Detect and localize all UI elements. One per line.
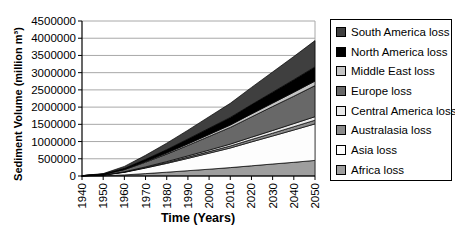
legend-label: Europe loss	[351, 85, 412, 97]
legend-label: Central America loss	[351, 105, 455, 117]
legend-swatch	[336, 47, 346, 57]
y-tick-label: 1000000	[31, 136, 76, 148]
legend-swatch	[336, 145, 346, 155]
x-tick-label: 2040	[288, 183, 300, 209]
x-tick-label: 2020	[245, 183, 257, 209]
y-tick-label: 500000	[38, 153, 76, 165]
legend-label: North America loss	[351, 46, 448, 58]
x-tick-label: 1960	[118, 183, 130, 209]
x-tick-label: 1950	[97, 183, 109, 209]
y-tick-label: 0	[70, 170, 76, 182]
x-tick-label: 1970	[140, 183, 152, 209]
legend-swatch	[336, 66, 346, 76]
legend-label: South America loss	[351, 26, 449, 38]
y-tick-label: 1500000	[31, 118, 76, 130]
legend-item-asia-loss: Asia loss	[331, 140, 451, 160]
legend-item-australasia-loss: Australasia loss	[331, 120, 451, 140]
y-tick-label: 4500000	[31, 15, 76, 27]
x-tick-label: 2000	[203, 183, 215, 209]
y-tick-label: 3500000	[31, 49, 76, 61]
legend-swatch	[336, 165, 346, 175]
legend-label: Australasia loss	[351, 124, 432, 136]
x-tick-label: 2030	[267, 183, 279, 209]
y-tick-label: 2500000	[31, 84, 76, 96]
legend-item-north-america-loss: North America loss	[331, 42, 451, 62]
legend-item-africa-loss: Africa loss	[331, 160, 451, 180]
y-tick-label: 4000000	[31, 32, 76, 44]
x-tick-label: 2050	[309, 183, 321, 209]
x-tick-label: 1980	[161, 183, 173, 209]
x-axis-title: Time (Years)	[98, 211, 298, 225]
legend-swatch	[336, 125, 346, 135]
chart-figure: 0500000100000015000002000000250000030000…	[0, 0, 455, 234]
legend-swatch	[336, 86, 346, 96]
x-tick-label: 1990	[182, 183, 194, 209]
y-axis-title: Sediment Volume (million m³)	[12, 0, 28, 209]
legend-item-middle-east-loss: Middle East loss	[331, 61, 451, 81]
y-tick-label: 3000000	[31, 67, 76, 79]
legend-swatch	[336, 27, 346, 37]
x-tick-label: 1940	[76, 183, 88, 209]
legend-item-south-america-loss: South America loss	[331, 22, 451, 42]
y-tick-label: 2000000	[31, 101, 76, 113]
legend-item-central-america-loss: Central America loss	[331, 101, 451, 121]
legend-label: Asia loss	[351, 144, 397, 156]
legend-label: Middle East loss	[351, 65, 435, 77]
legend-swatch	[336, 106, 346, 116]
legend-label: Africa loss	[351, 164, 404, 176]
legend-item-europe-loss: Europe loss	[331, 81, 451, 101]
legend: South America lossNorth America lossMidd…	[330, 19, 452, 181]
x-tick-label: 2010	[224, 183, 236, 209]
